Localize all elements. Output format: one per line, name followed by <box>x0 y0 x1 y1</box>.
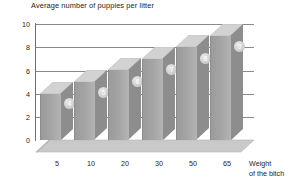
x-tick-label-20: 20 <box>112 159 138 168</box>
y-tick-label-2: 2 <box>8 113 30 122</box>
bar-side-face-20 <box>128 58 141 140</box>
x-tick-label-50: 50 <box>180 159 206 168</box>
bar-front-face-30 <box>142 59 163 140</box>
bar-side-face-30 <box>162 47 175 140</box>
bar-value-label-65: 9 <box>234 41 245 52</box>
x-axis-title: Weight of the bitch <box>249 159 290 178</box>
x-tick-label-5: 5 <box>44 159 70 168</box>
x-axis-title-line-2: of the bitch <box>249 169 290 179</box>
bar-front-face-10 <box>74 82 95 140</box>
bar-front-face-50 <box>176 47 197 140</box>
y-axis-line <box>35 23 36 141</box>
bar-chart: Average number of puppies per litter 10 … <box>0 0 290 190</box>
y-tick-label-8: 8 <box>8 43 30 52</box>
y-tick-label-10: 10 <box>8 20 30 29</box>
y-tick-label-4: 4 <box>8 90 30 99</box>
x-tick-label-65: 65 <box>214 159 240 168</box>
y-tick-label-6: 6 <box>8 67 30 76</box>
x-tick-label-10: 10 <box>78 159 104 168</box>
bar-side-face-5 <box>60 82 73 140</box>
y-tick-label-0: 0 <box>8 136 30 145</box>
chart-title: Average number of puppies per litter <box>31 1 154 10</box>
bar-front-face-65 <box>210 36 231 140</box>
bar-front-face-20 <box>108 70 129 140</box>
x-axis-title-line-1: Weight <box>249 159 290 169</box>
bar-side-face-50 <box>196 35 209 140</box>
bar-front-face-5 <box>40 94 61 140</box>
x-tick-label-30: 30 <box>146 159 172 168</box>
bar-side-face-10 <box>94 70 107 140</box>
